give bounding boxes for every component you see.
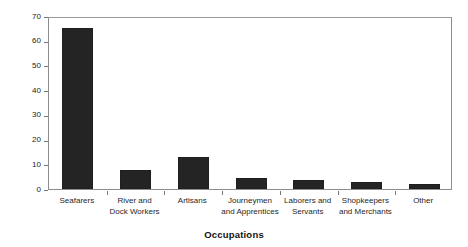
bar: [62, 28, 93, 189]
y-tick: 40: [0, 91, 48, 92]
y-tick-label: 70: [32, 12, 41, 22]
y-tick-label: 40: [32, 86, 41, 96]
bar: [293, 180, 324, 189]
y-tick-label: 50: [32, 61, 41, 71]
bar: [178, 157, 209, 189]
bar: [409, 184, 440, 189]
y-tick-label: 20: [32, 135, 41, 145]
y-tick: 60: [0, 42, 48, 43]
y-tick-label: 0: [37, 185, 41, 195]
y-tick: 0: [0, 190, 48, 191]
y-tick-label: 30: [32, 110, 41, 120]
bar-chart-figure: Percent of Deaths Recorded 0102030405060…: [0, 0, 468, 247]
x-tick-label: Artisans: [163, 196, 221, 207]
y-tick: 70: [0, 17, 48, 18]
y-tick: 30: [0, 116, 48, 117]
x-axis-title: Occupations: [0, 229, 468, 240]
x-tick-mark: [222, 191, 223, 195]
x-tick-mark: [280, 191, 281, 195]
x-tick-label: River and Dock Workers: [106, 196, 164, 217]
plot-area: [48, 17, 452, 190]
x-tick-label: Laborers and Servants: [279, 196, 337, 217]
y-tick-mark: [44, 190, 48, 191]
y-tick-label: 60: [32, 36, 41, 46]
x-tick-label: Shopkeepers and Merchants: [337, 196, 395, 217]
y-tick-label: 10: [32, 160, 41, 170]
x-tick-mark: [164, 191, 165, 195]
x-tick-label: Seafarers: [48, 196, 106, 207]
y-tick: 10: [0, 165, 48, 166]
x-tick-mark: [107, 191, 108, 195]
bar: [236, 178, 267, 189]
x-tick-mark: [395, 191, 396, 195]
bar: [351, 182, 382, 189]
x-tick-label: Journeymen and Apprentices: [221, 196, 279, 217]
x-tick-label: Other: [394, 196, 452, 207]
y-tick: 20: [0, 141, 48, 142]
bar: [120, 170, 151, 189]
y-tick: 50: [0, 66, 48, 67]
x-tick-mark: [338, 191, 339, 195]
chart-title: [60, 0, 410, 4]
